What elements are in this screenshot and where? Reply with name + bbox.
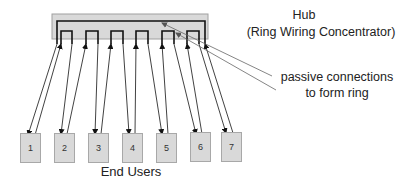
end-user-7: 7	[221, 132, 242, 162]
end-user-1: 1	[20, 133, 41, 163]
user-wires	[28, 44, 233, 135]
end-user-5: 5	[156, 133, 177, 163]
end-user-3: 3	[88, 133, 109, 163]
end-user-2: 2	[54, 133, 75, 163]
hub-title: Hub	[284, 8, 324, 22]
end-user-4: 4	[122, 133, 143, 163]
annotation-line-2: to form ring	[272, 86, 402, 100]
annotation-line-1: passive connections	[272, 70, 402, 84]
hub-box	[52, 14, 208, 39]
hub-subtitle: (Ring Wiring Concentrator)	[236, 25, 406, 39]
end-user-6: 6	[190, 132, 211, 162]
end-users-label: End Users	[96, 164, 166, 179]
